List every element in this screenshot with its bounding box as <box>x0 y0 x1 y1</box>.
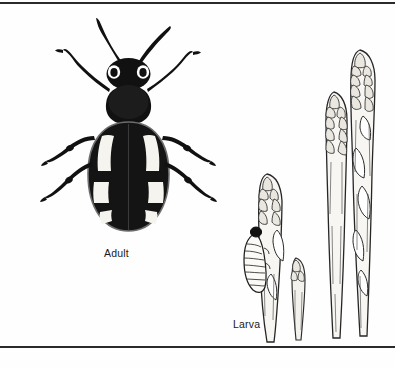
adult-beetle-illustration <box>36 12 216 242</box>
larva-on-asparagus-illustration <box>236 44 388 344</box>
caption-larva: Larva <box>233 318 260 330</box>
bottom-rule <box>0 346 395 348</box>
caption-adult: Adult <box>104 247 129 259</box>
illustration-area: Adult Larva <box>0 4 395 346</box>
figure-page: Adult Larva <box>0 0 395 367</box>
